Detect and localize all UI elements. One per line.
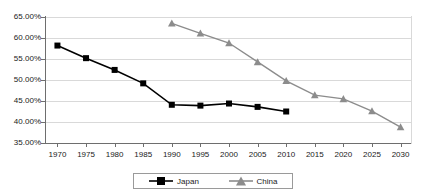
- x-axis-tick: [343, 143, 344, 147]
- y-axis-tick: [41, 80, 46, 81]
- gridline: [46, 59, 412, 60]
- x-axis-tick: [200, 143, 201, 147]
- y-axis-tick-label: 45.00%: [1, 97, 41, 105]
- y-axis-tick: [41, 17, 46, 18]
- gridline: [46, 80, 412, 81]
- plot-right-border: [411, 16, 412, 144]
- y-axis-tick: [41, 143, 46, 144]
- x-axis-tick-label: 2030: [386, 150, 416, 159]
- y-axis-labels: 35.00%40.00%45.00%50.00%55.00%60.00%65.0…: [0, 0, 41, 194]
- x-axis-tick-label: 2025: [357, 150, 387, 159]
- y-axis-tick: [41, 122, 46, 123]
- x-axis-tick-label: 2000: [214, 150, 244, 159]
- x-axis-tick: [143, 143, 144, 147]
- chart-legend: Japan China: [133, 173, 293, 189]
- y-axis-tick-label: 50.00%: [1, 76, 41, 84]
- x-axis-tick-label: 2005: [243, 150, 273, 159]
- x-axis-tick: [115, 143, 116, 147]
- y-axis-tick-label: 65.00%: [1, 13, 41, 21]
- x-axis-tick: [258, 143, 259, 147]
- x-axis-tick-label: 1985: [128, 150, 158, 159]
- legend-item-japan: Japan: [134, 176, 213, 186]
- gridline: [46, 122, 412, 123]
- x-axis-tick-label: 1970: [42, 150, 72, 159]
- gridline: [46, 101, 412, 102]
- x-axis-tick-label: 1995: [185, 150, 215, 159]
- x-axis-tick-label: 2015: [300, 150, 330, 159]
- y-axis-tick-label: 55.00%: [1, 55, 41, 63]
- legend-label-japan: Japan: [177, 177, 199, 186]
- x-axis-tick: [286, 143, 287, 147]
- y-axis-tick: [41, 59, 46, 60]
- gridline: [46, 17, 412, 18]
- x-axis-tick: [401, 143, 402, 147]
- x-axis-tick: [172, 143, 173, 147]
- x-axis-tick: [315, 143, 316, 147]
- y-axis-tick-label: 35.00%: [1, 139, 41, 147]
- plot-area: [46, 17, 412, 143]
- y-axis-tick: [41, 38, 46, 39]
- x-axis-tick-label: 1975: [71, 150, 101, 159]
- x-axis-tick: [229, 143, 230, 147]
- legend-label-china: China: [257, 177, 278, 186]
- gridline: [46, 38, 412, 39]
- x-axis-tick: [372, 143, 373, 147]
- x-axis-tick-label: 2020: [328, 150, 358, 159]
- x-axis-tick-label: 1980: [100, 150, 130, 159]
- legend-marker-square-icon: [148, 176, 174, 186]
- chart-container: 35.00%40.00%45.00%50.00%55.00%60.00%65.0…: [0, 0, 422, 194]
- x-axis-tick: [57, 143, 58, 147]
- legend-item-china: China: [213, 176, 292, 186]
- y-axis-tick-label: 40.00%: [1, 118, 41, 126]
- y-axis-tick-label: 60.00%: [1, 34, 41, 42]
- legend-marker-triangle-icon: [228, 176, 254, 186]
- x-axis-tick-label: 2010: [271, 150, 301, 159]
- x-axis-tick-label: 1990: [157, 150, 187, 159]
- x-axis-tick: [86, 143, 87, 147]
- y-axis-tick: [41, 101, 46, 102]
